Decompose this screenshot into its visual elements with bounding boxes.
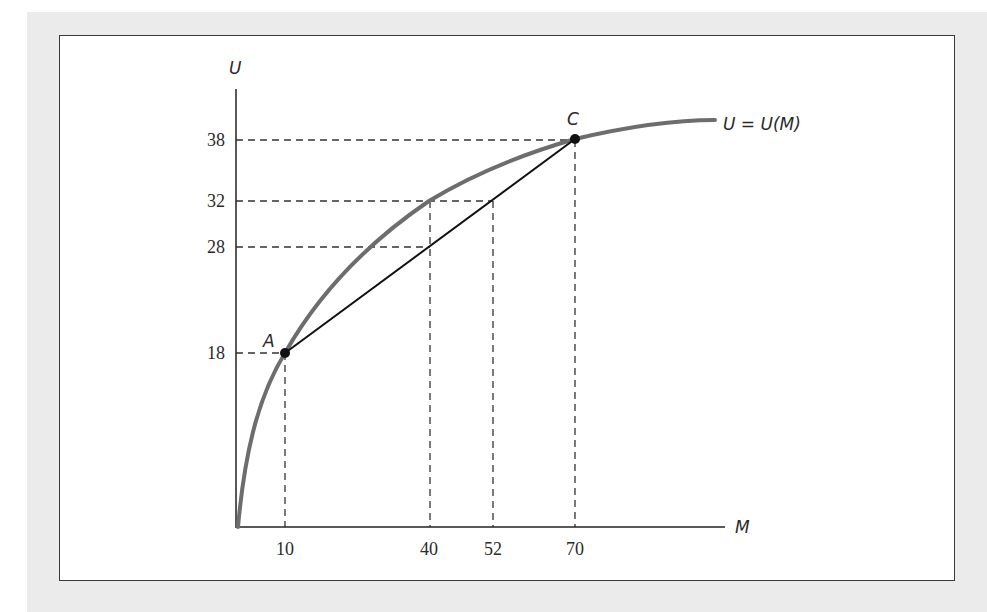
point-c-marker — [570, 134, 580, 144]
x-tick-10: 10 — [276, 539, 294, 559]
point-a-marker — [280, 348, 290, 358]
reference-lines — [236, 140, 575, 527]
point-a-label: A — [262, 331, 275, 351]
x-tick-40: 40 — [420, 539, 438, 559]
chord-line-ac — [285, 139, 575, 353]
curve-label: U = U(M) — [723, 114, 801, 134]
y-axis-label: U — [229, 58, 242, 78]
y-tick-32: 32 — [207, 191, 225, 211]
y-tick-38: 38 — [207, 130, 225, 150]
x-tick-52: 52 — [484, 539, 502, 559]
utility-chart: U M U = U(M) A C 38 32 28 18 10 40 52 70 — [0, 0, 987, 612]
x-tick-70: 70 — [566, 539, 584, 559]
y-tick-28: 28 — [207, 237, 225, 257]
y-tick-18: 18 — [207, 343, 225, 363]
x-axis-label: M — [735, 517, 750, 537]
point-c-label: C — [567, 109, 579, 129]
utility-curve — [238, 120, 715, 527]
